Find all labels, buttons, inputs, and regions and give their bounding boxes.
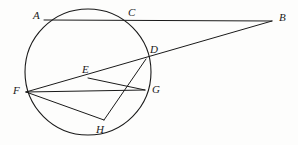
point-label-B: B (279, 12, 286, 23)
point-label-E: E (82, 64, 89, 75)
point-label-G: G (152, 84, 160, 95)
point-label-F: F (13, 85, 20, 96)
segment-F-H (26, 92, 104, 120)
point-label-D: D (150, 44, 158, 55)
point-label-C: C (128, 7, 135, 18)
segment-E-G (88, 78, 145, 90)
point-label-H: H (96, 124, 104, 135)
point-label-A: A (33, 10, 40, 21)
geometry-figure: A B C D E F G H (0, 0, 298, 145)
segment-A-B (44, 20, 272, 21)
segment-F-G (26, 90, 145, 92)
segment-F-B (26, 21, 272, 92)
geometry-canvas (0, 0, 298, 145)
